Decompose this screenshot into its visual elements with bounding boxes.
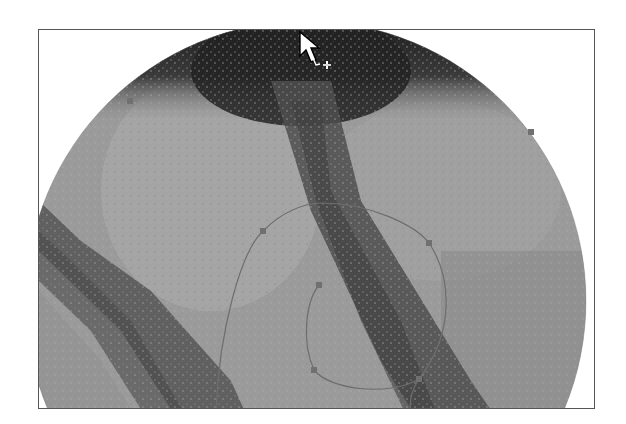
clipped-image: [39, 30, 594, 408]
anchor-point[interactable]: [316, 282, 322, 288]
anchor-point[interactable]: [260, 228, 266, 234]
anchor-point[interactable]: [416, 376, 422, 382]
canvas-artwork: [39, 30, 594, 408]
arrow-add-anchor-icon: +: [298, 30, 338, 74]
anchor-point[interactable]: [311, 367, 317, 373]
anchor-point[interactable]: [127, 98, 133, 104]
image-canvas[interactable]: [38, 29, 595, 409]
anchor-point[interactable]: [528, 129, 534, 135]
anchor-point[interactable]: [426, 240, 432, 246]
